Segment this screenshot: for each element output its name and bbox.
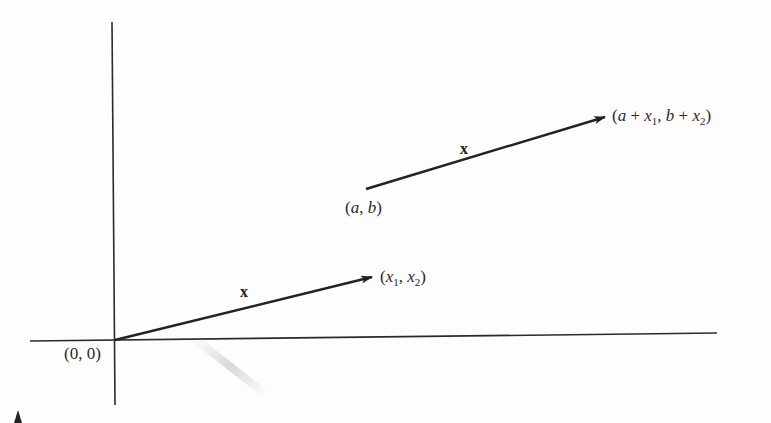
origin-label: (0, 0) (64, 345, 101, 362)
vector-label-1: x (240, 283, 248, 301)
x-axis (30, 333, 717, 341)
diagram-svg (0, 0, 771, 423)
vector-x-translated (366, 117, 605, 189)
tip2-label: (a + x1, b + x2) (612, 107, 711, 127)
vector-label-2: x (460, 140, 468, 158)
diagram-canvas: (0, 0) (x1, x2) (a, b) (a + x1, b + x2) … (0, 0, 771, 423)
tip1-label: (x1, x2) (380, 268, 426, 288)
tail2-label: (a, b) (345, 199, 382, 216)
y-axis (112, 22, 115, 405)
corner-mark (14, 410, 22, 423)
